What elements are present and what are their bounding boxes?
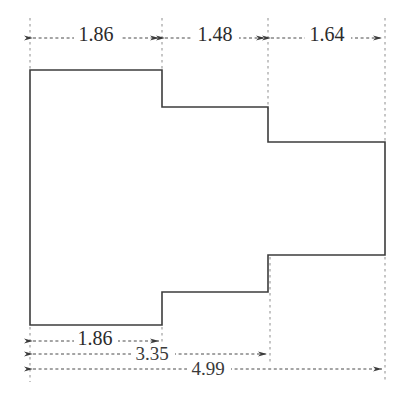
dim-label-top-3: 1.64 [310, 23, 345, 45]
dim-label-top-1: 1.86 [79, 23, 114, 45]
dim-label-bottom-3: 4.99 [191, 358, 224, 379]
top-dimension-chain: 1.86 1.48 1.64 [33, 23, 382, 48]
canvas-background [0, 0, 411, 411]
drawing-canvas: 1.86 1.48 1.64 1.86 3.35 [0, 0, 411, 411]
engineering-drawing: 1.86 1.48 1.64 1.86 3.35 [0, 0, 411, 411]
dim-label-bottom-1: 1.86 [78, 327, 113, 349]
dim-label-bottom-2: 3.35 [135, 343, 168, 364]
dim-label-top-2: 1.48 [198, 23, 233, 45]
